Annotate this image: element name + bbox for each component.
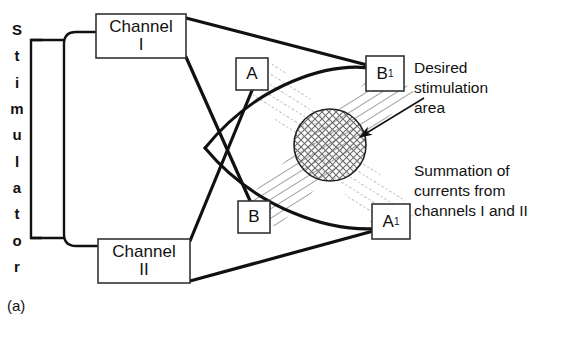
annotation-summation-of-currents: Summation of currents from channels I an…	[414, 161, 528, 220]
channel-2-line1: Channel	[112, 243, 175, 261]
annotation-desired-stimulation-area: Desired stimulation area	[414, 58, 488, 117]
channel-1-line2: I	[139, 36, 144, 54]
lead-channel2-to-a1	[190, 230, 377, 281]
stimulator-letter: S	[12, 22, 22, 37]
stimulator-bracket-outer	[31, 40, 42, 238]
electrode-b1-text: B	[377, 64, 388, 84]
stimulator-letter: t	[15, 48, 20, 63]
summation-line-3: channels I and II	[414, 201, 528, 221]
stimulator-letter: l	[15, 154, 19, 169]
lead-channel1-to-b1	[186, 18, 371, 66]
figure-canvas: S t i m u l a t o r Channel I Channel II…	[0, 0, 567, 338]
stimulator-letter: u	[12, 127, 21, 142]
channel-1-box: Channel I	[96, 14, 186, 58]
figure-label: (a)	[7, 297, 25, 314]
stimulator-letter: r	[14, 259, 20, 274]
stimulator-letter: a	[13, 180, 21, 195]
stimulator-label: S t i m u l a t o r	[4, 22, 30, 274]
electrode-b1-label: B1	[366, 56, 404, 91]
stimulator-letter: i	[15, 75, 19, 90]
desired-line-3: area	[414, 98, 488, 118]
channel-1-line1: Channel	[109, 18, 172, 36]
stimulator-letter: m	[10, 101, 23, 116]
electrode-a1-text: A	[383, 212, 394, 232]
electrode-b-text: B	[248, 207, 259, 227]
desired-line-2: stimulation	[414, 78, 488, 98]
electrode-a1-label: A1	[372, 204, 410, 239]
desired-stimulation-circle	[294, 109, 366, 181]
stimulator-letter: t	[15, 206, 20, 221]
stimulator-bracket-inner	[64, 32, 98, 246]
summation-line-1: Summation of	[414, 161, 528, 181]
electrode-b-label: B	[238, 201, 270, 233]
channel-2-line2: II	[139, 261, 148, 279]
electrode-a-label: A	[236, 58, 268, 90]
desired-line-1: Desired	[414, 58, 488, 78]
electrode-a-text: A	[246, 64, 257, 84]
stimulator-letter: o	[12, 233, 21, 248]
summation-line-2: currents from	[414, 181, 528, 201]
channel-2-box: Channel II	[98, 239, 190, 283]
stimulator-rails	[31, 40, 64, 238]
